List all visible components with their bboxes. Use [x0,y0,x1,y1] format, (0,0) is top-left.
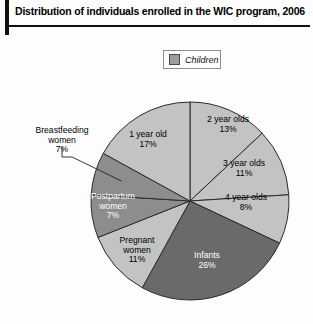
pie-chart-svg: 2 year olds13%3 year olds11%4 year olds8… [0,0,313,324]
chart-page: Distribution of individuals enrolled in … [0,0,313,324]
pie-slice-label: Breastfeedingwomen7% [35,125,88,154]
pie-chart: 2 year olds13%3 year olds11%4 year olds8… [0,0,313,324]
